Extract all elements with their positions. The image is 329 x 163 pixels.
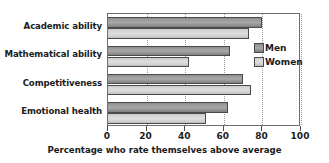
gridline-80: [262, 14, 263, 125]
legend-item-women: Women: [254, 55, 306, 69]
x-tick-label-100: 100: [291, 131, 310, 141]
category-label-academic-ability: Academic ability: [0, 21, 102, 31]
category-label-competitiveness: Competitiveness: [0, 78, 102, 88]
category-axis-labels: Academic ability Mathematical ability Co…: [0, 13, 105, 126]
category-label-emotional-health: Emotional health: [0, 106, 102, 116]
bar-men-academic-ability: [108, 17, 262, 28]
x-tick-label-20: 20: [139, 131, 152, 141]
legend: Men Women: [254, 41, 306, 69]
bar-women-mathematical-ability: [108, 57, 189, 68]
legend-swatch-women-icon: [254, 57, 264, 67]
x-axis-title: Percentage who rate themselves above ave…: [0, 145, 329, 155]
bar-men-competitiveness: [108, 74, 243, 85]
bar-women-competitiveness: [108, 85, 251, 96]
x-tick-label-0: 0: [104, 131, 110, 141]
x-tick-label-60: 60: [217, 131, 230, 141]
x-axis-tick-labels: 020406080100: [107, 131, 300, 144]
legend-item-men: Men: [254, 41, 306, 55]
legend-swatch-men-icon: [254, 43, 264, 53]
bar-men-mathematical-ability: [108, 46, 230, 57]
legend-label-men: Men: [265, 43, 286, 53]
x-tick-label-40: 40: [178, 131, 191, 141]
plot-area: [107, 13, 300, 126]
x-tick-label-80: 80: [255, 131, 268, 141]
legend-label-women: Women: [265, 57, 303, 67]
category-label-mathematical-ability: Mathematical ability: [0, 49, 102, 59]
bar-women-emotional-health: [108, 113, 206, 124]
bar-chart: Academic ability Mathematical ability Co…: [0, 0, 329, 163]
bar-women-academic-ability: [108, 28, 249, 39]
gridline-100: [301, 14, 302, 125]
bar-men-emotional-health: [108, 102, 228, 113]
